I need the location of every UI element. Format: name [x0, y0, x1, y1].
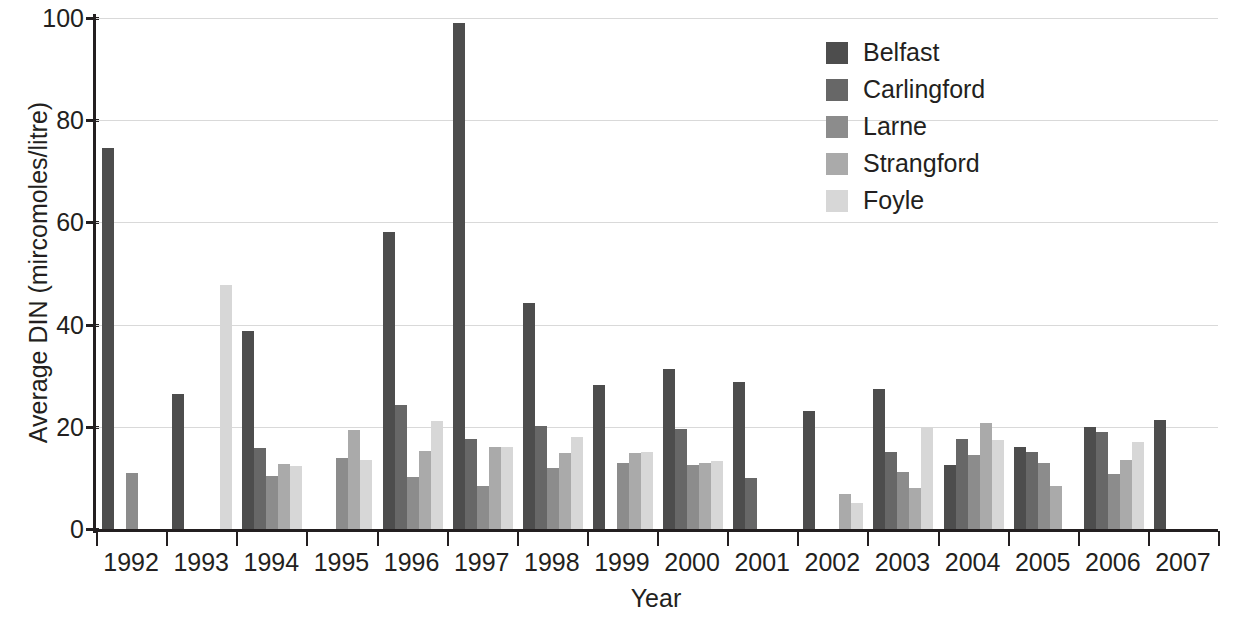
legend-swatch-icon	[826, 42, 848, 64]
bar	[419, 451, 431, 529]
gridline	[96, 222, 1218, 223]
x-tick-label: 2007	[1138, 548, 1228, 577]
legend-swatch-icon	[826, 116, 848, 138]
bar	[1120, 460, 1132, 529]
bar	[254, 448, 266, 529]
bar	[1096, 432, 1108, 529]
legend-label: Strangford	[863, 151, 980, 176]
bar	[851, 503, 863, 529]
y-tick-label: 20	[32, 412, 84, 441]
bar	[897, 472, 909, 529]
bar	[1084, 427, 1096, 529]
bar	[921, 427, 933, 529]
x-tick-mark	[1078, 531, 1080, 546]
chart-figure: Average DIN (mircomoles/litre) 020406080…	[0, 0, 1236, 620]
legend-label: Carlingford	[863, 77, 985, 102]
y-tick-label: 0	[32, 515, 84, 544]
bar	[348, 430, 360, 529]
x-tick-mark	[1008, 531, 1010, 546]
bar	[687, 465, 699, 529]
legend-label: Foyle	[863, 188, 924, 213]
bar	[407, 477, 419, 529]
bar	[873, 389, 885, 529]
bar	[453, 23, 465, 529]
bar	[465, 439, 477, 529]
x-tick-mark	[236, 531, 238, 546]
y-axis-ticks: 020406080100	[0, 0, 84, 620]
bar	[980, 423, 992, 529]
bar	[571, 437, 583, 529]
bar	[102, 148, 114, 529]
bar	[242, 331, 254, 529]
x-tick-mark	[447, 531, 449, 546]
bar	[535, 426, 547, 529]
gridline	[96, 18, 1218, 19]
bar	[360, 460, 372, 529]
bar	[559, 453, 571, 529]
y-tick-label: 80	[32, 106, 84, 135]
bar	[1014, 447, 1026, 529]
gridline	[96, 325, 1218, 326]
bar	[711, 461, 723, 529]
bar	[477, 486, 489, 529]
bar	[745, 478, 757, 529]
bar	[803, 411, 815, 529]
bar	[699, 463, 711, 529]
x-tick-mark	[306, 531, 308, 546]
legend-item: Strangford	[826, 147, 1066, 180]
bar	[489, 447, 501, 529]
bar	[523, 303, 535, 529]
bar	[220, 285, 232, 529]
x-axis-title: Year	[96, 584, 1216, 613]
y-tick-label: 60	[32, 208, 84, 237]
x-tick-mark	[166, 531, 168, 546]
bar	[968, 455, 980, 529]
bar	[1132, 442, 1144, 529]
bar	[641, 452, 653, 529]
legend-swatch-icon	[826, 79, 848, 101]
bar	[172, 394, 184, 529]
bar	[992, 440, 1004, 529]
y-tick-label: 40	[32, 310, 84, 339]
bar	[126, 473, 138, 529]
bar	[663, 369, 675, 529]
x-tick-mark	[657, 531, 659, 546]
x-tick-mark	[727, 531, 729, 546]
x-axis-line	[93, 529, 1218, 532]
bar	[431, 421, 443, 529]
x-tick-mark	[587, 531, 589, 546]
x-tick-mark	[96, 531, 98, 546]
bar	[956, 439, 968, 529]
legend-item: Carlingford	[826, 73, 1066, 106]
bar	[629, 453, 641, 529]
legend-swatch-icon	[826, 190, 848, 212]
legend-swatch-icon	[826, 153, 848, 175]
legend-label: Larne	[863, 114, 927, 139]
bar	[395, 405, 407, 529]
legend-label: Belfast	[863, 40, 939, 65]
bar	[383, 232, 395, 529]
bar	[278, 464, 290, 529]
y-tick-label: 100	[32, 4, 84, 33]
chart-legend: BelfastCarlingfordLarneStrangfordFoyle	[826, 36, 1066, 221]
bar	[336, 458, 348, 529]
bar	[593, 385, 605, 529]
x-tick-mark	[517, 531, 519, 546]
legend-item: Belfast	[826, 36, 1066, 69]
bar	[885, 452, 897, 529]
bar	[675, 429, 687, 529]
legend-item: Foyle	[826, 184, 1066, 217]
y-axis-line	[93, 14, 96, 533]
bar	[909, 488, 921, 529]
bar	[733, 382, 745, 529]
bar	[1154, 420, 1166, 529]
x-tick-mark	[797, 531, 799, 546]
bar	[1038, 463, 1050, 529]
x-tick-mark	[1148, 531, 1150, 546]
x-tick-mark	[867, 531, 869, 546]
bar	[501, 447, 513, 529]
bar	[290, 466, 302, 529]
bar	[1108, 474, 1120, 529]
bar	[839, 494, 851, 529]
bar	[547, 468, 559, 529]
